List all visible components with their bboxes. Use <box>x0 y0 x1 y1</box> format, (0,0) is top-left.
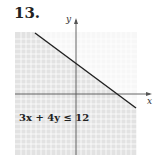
x-axis-label: x <box>147 96 152 106</box>
inequality-graph <box>0 0 160 161</box>
y-axis-label: y <box>66 14 71 24</box>
y-axis-arrow-icon <box>74 18 78 24</box>
inequality-label: 3x + 4y ≤ 12 <box>19 112 89 123</box>
